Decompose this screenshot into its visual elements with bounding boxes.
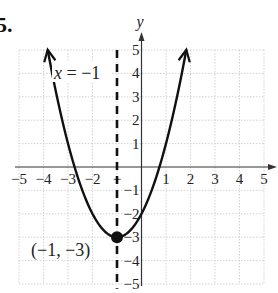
vertex-label: (−1, −3) [31, 240, 90, 261]
y-tick-label: 4 [132, 65, 140, 81]
annotations: (−1, −3)x = −1 [31, 62, 110, 261]
y-tick-label: 3 [132, 89, 140, 105]
x-tick-label: −2 [85, 171, 101, 187]
y-axis-arrow-icon [139, 32, 145, 41]
y-tick-label: −3 [124, 229, 140, 245]
x-tick-label: −5 [11, 171, 27, 187]
parabola-graph: y −5−4−3−2−1234554321−1−2−3−4−5 (−1, −3)… [0, 0, 278, 293]
x-axis-arrow-icon [268, 164, 277, 170]
x-tick-label: 5 [260, 171, 268, 187]
x-tick-label: 4 [236, 171, 244, 187]
axis-of-symmetry-label: x = −1 [53, 63, 100, 83]
x-tick-label: 3 [211, 171, 219, 187]
y-tick-label: −4 [124, 253, 140, 269]
y-tick-label: 2 [132, 112, 140, 128]
x-tick-label: 1 [162, 171, 170, 187]
y-tick-label: −5 [124, 276, 140, 292]
y-tick-label: −1 [124, 182, 140, 198]
y-tick-label: 1 [132, 136, 140, 152]
y-axis-label: y [135, 13, 145, 31]
x-tick-label: −3 [60, 171, 76, 187]
x-tick-label: 2 [187, 171, 195, 187]
y-tick-label: 5 [132, 42, 140, 58]
x-tick-label: −4 [36, 171, 52, 187]
